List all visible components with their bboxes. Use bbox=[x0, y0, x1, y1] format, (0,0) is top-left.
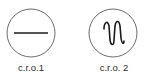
cro-1: c.r.o.1 bbox=[7, 9, 55, 73]
cro-2-label: c.r.o. 2 bbox=[100, 62, 129, 73]
cro-diagram: c.r.o.1 c.r.o. 2 bbox=[0, 0, 144, 77]
cro-2: c.r.o. 2 bbox=[89, 9, 137, 73]
wave-icon bbox=[104, 22, 124, 45]
cro-2-screen bbox=[89, 9, 137, 57]
cro-1-label: c.r.o.1 bbox=[18, 62, 44, 73]
